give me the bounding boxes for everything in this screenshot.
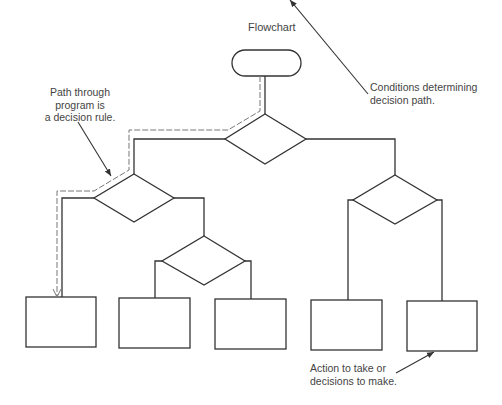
decision-1 [225,114,306,164]
decision-3 [162,236,245,285]
action-2 [119,298,190,348]
action-5 [407,301,477,351]
decision-2 [94,174,174,222]
pointer-path-rule [78,122,111,176]
action-3 [215,299,286,349]
start-terminator [232,50,301,76]
pointer-actions [396,352,434,373]
decision-4 [353,175,437,224]
action-4 [311,300,382,350]
pointer-conditions [290,0,368,94]
flowchart-canvas [0,0,502,405]
action-1 [26,297,96,347]
